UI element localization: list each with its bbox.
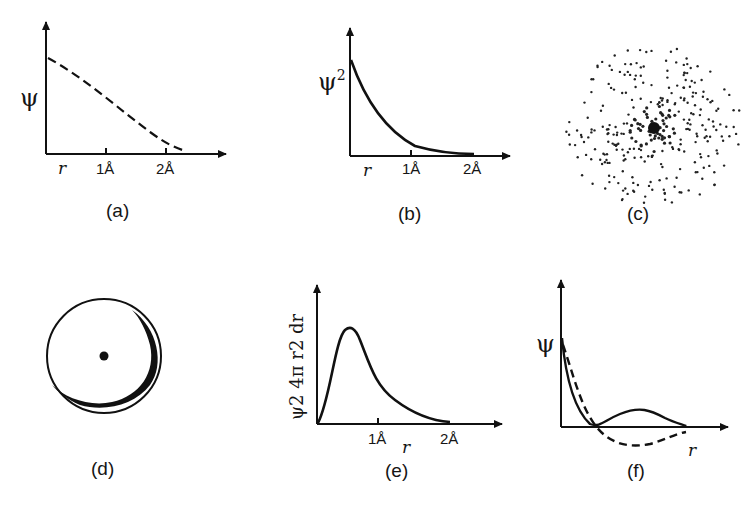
panel-b-tick-2: 2Å [463, 160, 481, 177]
panel-e-tick-2: 2Å [440, 430, 458, 447]
panel-f-solid-curve [562, 338, 686, 426]
panel-b-ylabel-sup: 2 [337, 67, 346, 83]
panel-a-xlabel: r [58, 158, 66, 178]
panel-a-tick-2: 2Å [156, 160, 174, 177]
panel-f-xlabel: r [688, 440, 696, 460]
panel-c-label: (c) [627, 203, 649, 225]
panel-a-ylabel: ψ [20, 84, 39, 112]
panel-c-nucleus [648, 122, 660, 134]
panel-f-axes [561, 280, 728, 427]
panel-f-dashed-curve [563, 345, 686, 446]
panel-e-axes [317, 285, 502, 424]
panel-e-tick-1: 1Å [368, 430, 386, 447]
panel-e-xlabel: r [402, 437, 410, 457]
panel-b-xlabel: r [363, 160, 371, 180]
panel-a-label: (a) [106, 200, 129, 222]
panel-b-axes [350, 28, 510, 156]
panel-a-axes [46, 22, 226, 154]
panel-a-curve [48, 58, 186, 151]
panel-e-label: (e) [385, 460, 408, 482]
panel-a-tick-1: 1Å [96, 160, 114, 177]
panel-e-ylabel: ψ2 4π r2 dr [286, 314, 307, 420]
panel-b-label: (b) [398, 203, 421, 225]
panel-f-ylabel: ψ [536, 330, 555, 358]
panel-b-curve [351, 60, 474, 154]
panel-d-orbital [47, 299, 161, 413]
panel-e-curve [318, 328, 450, 423]
panel-f-label: (f) [627, 460, 645, 482]
panel-b-ylabel: ψ2 [318, 68, 346, 96]
panel-d-label: (d) [91, 458, 114, 480]
panel-b-ylabel-base: ψ [318, 68, 337, 96]
panel-b-tick-1: 1Å [402, 160, 420, 177]
